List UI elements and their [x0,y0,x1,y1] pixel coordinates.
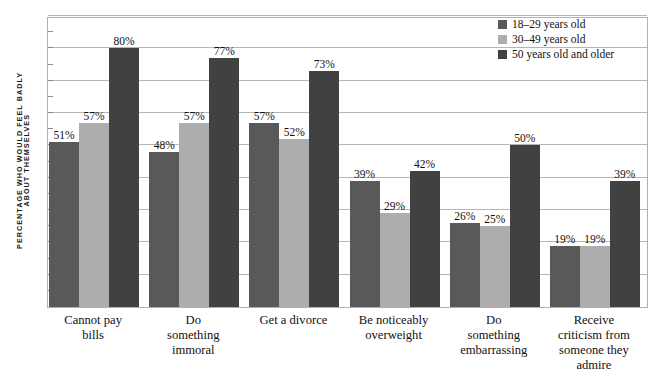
bar-value-label: 57% [243,110,285,122]
bar [380,213,410,307]
bar [610,181,640,307]
bar [309,71,339,307]
gridline [48,15,647,16]
bar [450,223,480,307]
bar [149,152,179,307]
bar [109,48,139,307]
x-axis-category-label-line: someone they [534,343,654,358]
bar-value-label: 77% [203,45,245,57]
legend-swatch-icon [498,35,507,44]
legend-item[interactable]: 30–49 years old [498,33,614,46]
x-axis-category-label-line: criticism from [534,328,654,343]
bars-layer: 51%57%80%48%57%77%57%52%73%39%29%42%26%2… [48,18,647,307]
bar-value-label: 39% [344,168,386,180]
legend-item-label: 50 years old and older [512,49,614,61]
bar [580,246,610,307]
y-axis-title-line-2: ABOUT THEMSELVES [23,114,30,207]
bar [49,142,79,307]
bar [179,123,209,307]
bar-value-label: 50% [504,132,546,144]
bar [410,171,440,307]
x-axis-category-label-line: immoral [133,343,253,358]
bar [209,58,239,307]
y-axis-title: PERCENTAGE WHO WOULD FEEL BADLY ABOUT TH… [0,0,46,320]
bar [510,145,540,307]
x-axis-labels: Cannot paybillsDosomethingimmoralGet a d… [47,313,648,386]
legend-swatch-icon [498,50,507,59]
bar-value-label: 42% [404,158,446,170]
x-axis-category-label: Receivecriticism fromsomeone theyadmire [534,313,654,372]
bar-value-label: 73% [303,58,345,70]
legend-swatch-icon [498,20,507,29]
x-axis-category-label-line: something [133,328,253,343]
x-axis-category-label-line: Receive [534,313,654,328]
bar [279,139,309,307]
bar-value-label: 80% [103,35,145,47]
legend-item-label: 30–49 years old [512,34,585,46]
bar-value-label: 39% [604,168,646,180]
legend-item[interactable]: 50 years old and older [498,48,614,61]
x-axis-category-label-line: admire [534,358,654,373]
bar [249,123,279,307]
legend-item[interactable]: 18–29 years old [498,18,614,31]
bar [550,246,580,307]
bar [480,226,510,307]
legend-item-label: 18–29 years old [512,19,585,31]
bar-chart: PERCENTAGE WHO WOULD FEEL BADLY ABOUT TH… [0,0,654,386]
legend: 18–29 years old30–49 years old50 years o… [498,18,614,61]
bar [79,123,109,307]
